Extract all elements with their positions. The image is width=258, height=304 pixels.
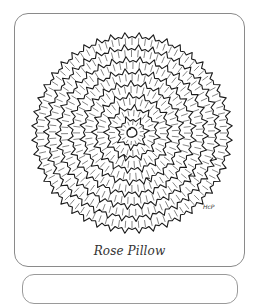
artist-signature: HcP: [203, 203, 214, 210]
next-figure-card: [22, 274, 238, 304]
rose-center-spiral: [127, 128, 137, 138]
figure-caption: Rose Pillow: [14, 244, 245, 258]
